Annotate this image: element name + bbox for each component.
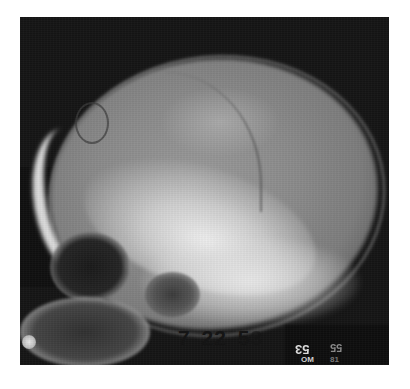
faded-small-label: 81	[330, 355, 339, 364]
film-grain-overlay	[20, 17, 389, 365]
date-stamp: 7 22 53	[178, 326, 263, 350]
om-label: OM	[301, 355, 314, 364]
skull-xray-image	[20, 17, 389, 365]
faded-number-label: 55	[330, 342, 342, 354]
